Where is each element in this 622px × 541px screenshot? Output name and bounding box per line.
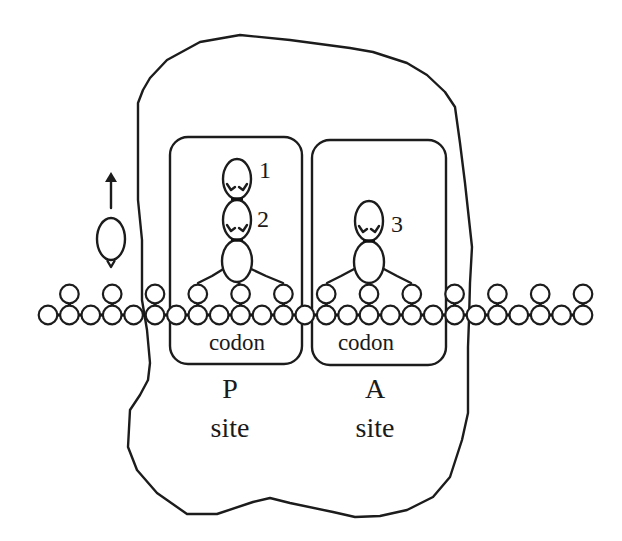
mrna-nucleotide — [60, 306, 79, 325]
trna-body-p — [222, 240, 252, 282]
mrna-nucleotide — [210, 306, 229, 325]
departing-trna-oval — [97, 218, 125, 260]
mrna-nucleotide — [510, 306, 529, 325]
mrna-nucleotide — [274, 306, 293, 325]
mrna-nucleotide — [467, 306, 486, 325]
p-site-letter: P — [222, 373, 238, 404]
ribosome-outline — [128, 35, 472, 517]
departing-trna — [97, 172, 125, 267]
arrowhead-icon — [105, 172, 117, 182]
amino-acid-2 — [223, 200, 251, 240]
mrna-nucleotide — [317, 306, 336, 325]
mrna-base — [146, 285, 165, 304]
amino-acid-3 — [355, 201, 383, 241]
mrna-nucleotide — [445, 306, 464, 325]
mrna-nucleotide — [39, 306, 58, 325]
mrna-base — [488, 285, 507, 304]
mrna-nucleotide — [574, 306, 593, 325]
mrna-base — [103, 285, 122, 304]
mrna-base — [445, 285, 464, 304]
a-site-word: site — [356, 412, 395, 443]
a-site-codon-label: codon — [338, 330, 395, 355]
trna-body-a — [354, 241, 384, 283]
amino-acid-1-label: 1 — [259, 157, 271, 183]
mrna-base — [231, 285, 250, 304]
ribosome-diagram: 1 2 3 codon codon P site A site — [0, 0, 622, 541]
mrna-base — [274, 285, 293, 304]
mrna-nucleotide — [488, 306, 507, 325]
mrna-nucleotide — [82, 306, 101, 325]
p-site-word: site — [211, 412, 250, 443]
mrna-nucleotide — [381, 306, 400, 325]
mrna-nucleotide — [103, 306, 122, 325]
mrna-base — [574, 285, 593, 304]
mrna-nucleotide — [552, 306, 571, 325]
mrna-base — [360, 285, 379, 304]
mrna-base — [60, 285, 79, 304]
mrna-nucleotide — [531, 306, 550, 325]
mrna-nucleotide — [167, 306, 186, 325]
mrna-base — [403, 285, 422, 304]
amino-acid-2-label: 2 — [257, 206, 269, 232]
mrna-nucleotide — [296, 306, 315, 325]
mrna-nucleotide — [403, 306, 422, 325]
mrna-chain — [39, 285, 593, 325]
mrna-base — [531, 285, 550, 304]
departing-trna-tip — [108, 261, 115, 267]
amino-acid-1 — [223, 159, 251, 199]
mrna-nucleotide — [338, 306, 357, 325]
p-site-trna — [222, 159, 252, 282]
mrna-nucleotide — [424, 306, 443, 325]
a-site-trna — [354, 201, 384, 283]
amino-acid-3-label: 3 — [391, 211, 403, 237]
mrna-base — [189, 285, 208, 304]
mrna-nucleotide — [146, 306, 165, 325]
mrna-nucleotide — [231, 306, 250, 325]
p-site-codon-label: codon — [209, 330, 266, 355]
mrna-nucleotide — [253, 306, 272, 325]
mrna-nucleotide — [360, 306, 379, 325]
a-site-letter: A — [365, 373, 386, 404]
mrna-nucleotide — [189, 306, 208, 325]
mrna-base — [317, 285, 336, 304]
mrna-nucleotide — [124, 306, 143, 325]
